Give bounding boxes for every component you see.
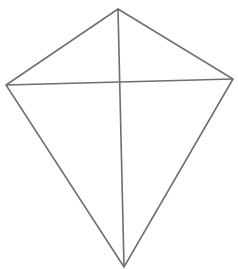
vertical-diagonal: [118, 9, 124, 267]
kite-svg: [0, 0, 238, 269]
kite-diagram: [0, 0, 238, 269]
